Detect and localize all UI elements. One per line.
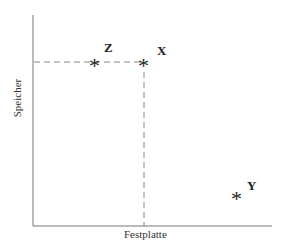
point-y-label: Y xyxy=(247,178,256,194)
point-y-marker: * xyxy=(231,188,242,210)
point-x-marker: * xyxy=(138,55,149,77)
chart-canvas xyxy=(0,0,288,248)
point-z-marker: * xyxy=(89,55,100,77)
point-x-label: X xyxy=(157,43,166,59)
point-z-label: Z xyxy=(104,40,113,56)
y-axis-label: Speicher xyxy=(11,73,23,123)
x-axis-label: Festplatte xyxy=(124,228,167,240)
